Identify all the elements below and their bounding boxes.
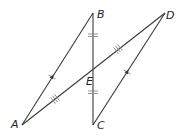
segment-ab <box>22 13 93 125</box>
parallel-arrow-ab <box>48 72 57 80</box>
point-label-d: D <box>166 9 174 22</box>
point-label-a: A <box>10 118 19 131</box>
point-label-e: E <box>86 75 93 88</box>
point-label-c: C <box>97 119 105 132</box>
tick-mark-ae <box>51 94 60 103</box>
segment-cd <box>93 13 165 125</box>
parallel-arrow-cd <box>123 67 132 75</box>
geometry-diagram: B D E A C <box>0 0 176 137</box>
point-label-b: B <box>97 8 105 21</box>
